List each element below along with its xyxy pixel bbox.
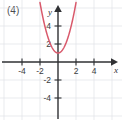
x-tick-label-pos4: 4 [92,66,97,76]
y-tick-label-neg2: -2 [43,75,51,85]
coordinate-plane: -4 -2 2 4 4 2 -2 -4 y x [0,0,122,120]
x-tick-label-pos2: 2 [74,66,79,76]
y-tick-label-neg4: -4 [43,93,51,103]
x-axis [2,58,118,66]
graph-figure: (4) [0,0,122,120]
y-tick-label-pos4: 4 [46,21,51,31]
x-tick-label-neg4: -4 [18,66,26,76]
x-axis-label: x [113,65,118,75]
y-axis-label: y [47,7,52,17]
